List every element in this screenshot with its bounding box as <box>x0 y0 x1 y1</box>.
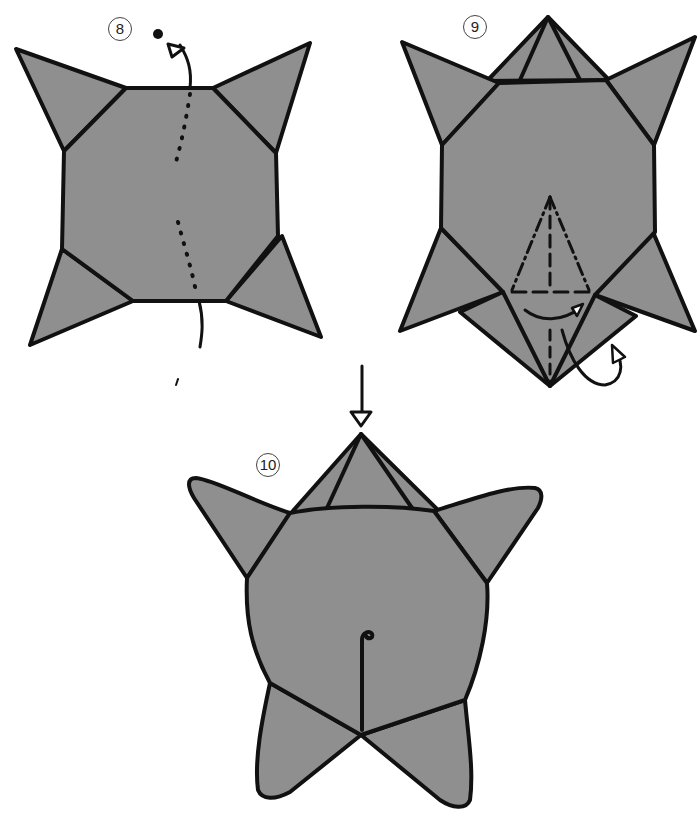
step-8-figure <box>16 29 321 385</box>
step-10-figure <box>189 366 541 807</box>
step-9-figure <box>400 17 695 386</box>
diagram-canvas <box>0 0 697 822</box>
